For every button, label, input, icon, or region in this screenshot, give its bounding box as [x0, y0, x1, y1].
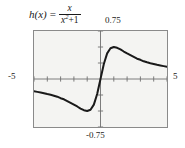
denominator-constant: 1: [74, 15, 79, 25]
x-min-label: -5: [8, 72, 16, 81]
fraction-denominator: x2+1: [59, 15, 81, 25]
fraction: x x2+1: [59, 4, 81, 26]
graph-svg: [34, 31, 167, 127]
function-name: h(x): [29, 9, 47, 20]
y-max-label: 0.75: [105, 16, 121, 25]
function-formula: h(x) = x x2+1: [29, 4, 81, 26]
x-max-label: 5: [173, 72, 178, 81]
graph-plot-area: [33, 30, 168, 128]
y-min-label: -0.75: [86, 131, 105, 140]
equals-sign: =: [50, 9, 56, 20]
